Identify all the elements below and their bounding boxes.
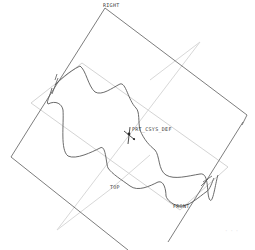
csys-label[interactable]: PRT_CSYS_DEF [132, 127, 172, 132]
front-plane-label[interactable]: FRONT [173, 204, 190, 209]
top-plane-label[interactable]: TOP [110, 185, 120, 190]
curve-end-arrow-icon [201, 176, 212, 186]
model-viewport[interactable] [0, 0, 255, 250]
right-datum-plane[interactable] [11, 8, 247, 250]
wavy-curve[interactable] [47, 66, 218, 206]
corner-note: - - - [225, 229, 239, 233]
top-datum-plane[interactable] [31, 63, 228, 210]
right-plane-label[interactable]: RIGHT [103, 3, 120, 8]
